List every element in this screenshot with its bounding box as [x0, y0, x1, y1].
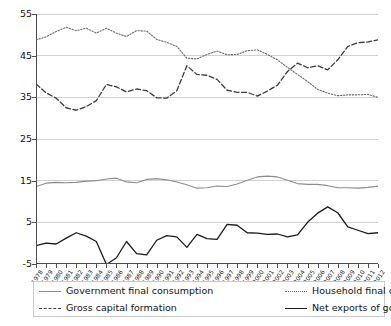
x-axis-tick-mark [137, 264, 138, 268]
x-axis-tick-mark [318, 264, 319, 268]
x-axis-tick-mark [257, 264, 258, 268]
x-axis-tick-mark [36, 264, 37, 268]
x-axis-tick-mark [177, 264, 178, 268]
x-axis-tick-mark [368, 264, 369, 268]
y-axis-tick-label: 25 [20, 134, 32, 144]
legend-label: Net exports of goods and services [312, 302, 391, 313]
x-axis-tick-mark [127, 264, 128, 268]
x-axis-tick-mark [348, 264, 349, 268]
x-axis-tick-mark [76, 264, 77, 268]
x-axis-tick-mark [247, 264, 248, 268]
x-axis-tick-mark [167, 264, 168, 268]
x-axis-tick-mark [187, 264, 188, 268]
legend-label: Gross capital formation [66, 302, 177, 313]
legend-swatch-dotted-icon [285, 287, 307, 295]
x-axis-tick-mark [328, 264, 329, 268]
y-axis-tick-label: 15 [20, 176, 32, 186]
y-axis-tick-label: -5 [23, 259, 32, 269]
legend-swatch-solid-black-icon [285, 304, 307, 312]
x-axis-tick-mark [147, 264, 148, 268]
x-axis-tick-mark [157, 264, 158, 268]
x-axis-tick-mark [227, 264, 228, 268]
x-axis-tick-mark [66, 264, 67, 268]
x-axis-tick-mark [217, 264, 218, 268]
x-axis-tick-mark [197, 264, 198, 268]
legend-item-household-final-consumption: Household final consumption [285, 285, 391, 296]
legend-swatch-dashed-icon [39, 304, 61, 312]
x-axis-tick-mark [46, 264, 47, 268]
y-axis: -551525354555 [0, 0, 32, 280]
x-axis-tick-mark [358, 264, 359, 268]
y-axis-tick-label: 45 [20, 51, 32, 61]
y-axis-tick-label: 55 [20, 9, 32, 19]
x-axis-tick-mark [86, 264, 87, 268]
y-axis-tick-label: 35 [20, 93, 32, 103]
plot-area [36, 14, 378, 264]
legend-label: Household final consumption [312, 285, 391, 296]
chart-figure: -551525354555 19781979198019811982198319… [0, 0, 391, 326]
x-axis-tick-mark [237, 264, 238, 268]
x-axis-tick-mark [56, 264, 57, 268]
x-axis-tick-mark [378, 264, 379, 268]
x-axis-tick-mark [207, 264, 208, 268]
x-axis-tick-mark [267, 264, 268, 268]
legend-item-government-final-consumption: Government final consumption [39, 285, 285, 296]
chart-legend: Government final consumption Household f… [33, 281, 385, 317]
x-axis-tick-mark [298, 264, 299, 268]
x-axis-tick-mark [96, 264, 97, 268]
legend-item-gross-capital-formation: Gross capital formation [39, 302, 285, 313]
x-axis-tick-mark [338, 264, 339, 268]
legend-swatch-solid-gray-icon [39, 287, 61, 295]
x-axis-tick-mark [308, 264, 309, 268]
legend-label: Government final consumption [66, 285, 213, 296]
legend-item-net-exports-of-goods-and-services: Net exports of goods and services [285, 302, 391, 313]
plot-frame [36, 14, 378, 264]
